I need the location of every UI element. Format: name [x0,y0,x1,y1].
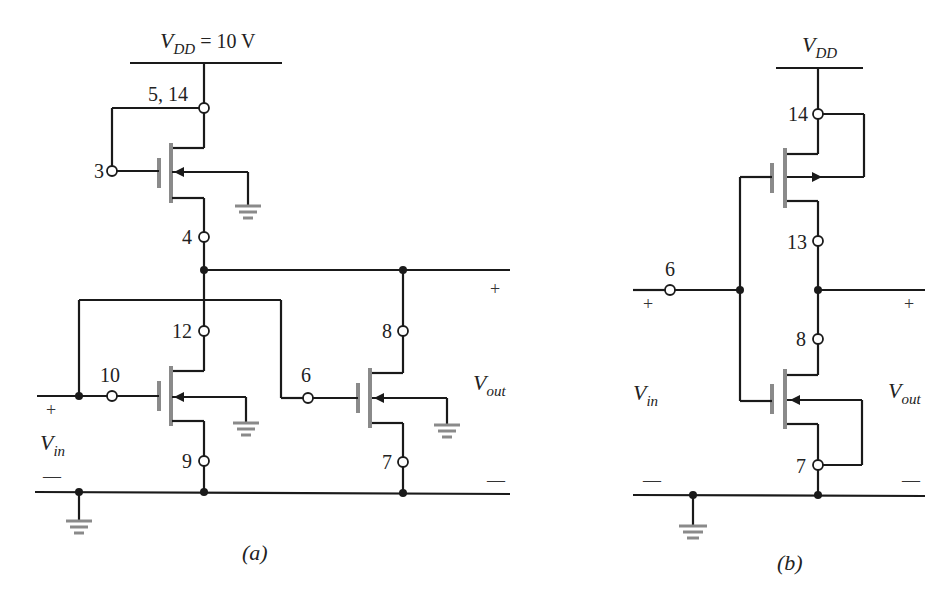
panel-a: VDD = 10 V 5, 14 3 4 + [35,28,510,565]
caption-a: (a) [242,540,268,565]
node-label-4: 4 [182,226,192,248]
node-label-3: 3 [94,160,104,182]
panel-b: VDD 14 13 6 8 [633,32,925,575]
node-label-8: 8 [382,320,392,342]
vdd-label-a: VDD = 10 V [160,28,256,57]
node-label-10: 10 [100,364,120,386]
input-minus-b: — [642,470,662,490]
vout-label-a: Vout [473,370,506,399]
output-minus-a: — [486,470,506,490]
vin-label-a: Vin [40,430,65,459]
node-label-5-14: 5, 14 [148,83,188,105]
output-minus-b: — [901,470,921,490]
body-arrow-icon [812,172,822,182]
node-label-9: 9 [182,450,192,472]
node-label-14: 14 [788,103,808,125]
circuit-figure: VDD = 10 V 5, 14 3 4 + [0,0,952,594]
node-label-12: 12 [172,320,192,342]
node-label-6: 6 [301,364,311,386]
caption-b: (b) [777,550,803,575]
node-label-7-b: 7 [796,455,806,477]
vdd-label-b: VDD [802,32,837,61]
vout-label-b: Vout [888,378,921,407]
input-minus-a: — [42,466,62,486]
output-plus-b: + [904,294,914,314]
input-plus-a: + [46,400,56,420]
ground-icon [434,425,460,437]
body-arrow-icon [174,167,184,177]
node-label-7: 7 [382,451,392,473]
node-label-8-b: 8 [796,328,806,350]
node-label-6-b: 6 [665,258,675,280]
ground-icon [233,423,259,435]
node-label-13: 13 [787,231,807,253]
vin-label-b: Vin [633,380,658,409]
output-plus-a: + [490,279,500,299]
ground-icon [66,521,92,533]
ground-icon [679,526,707,538]
input-plus-b: + [643,294,653,314]
ground-icon [235,206,261,218]
